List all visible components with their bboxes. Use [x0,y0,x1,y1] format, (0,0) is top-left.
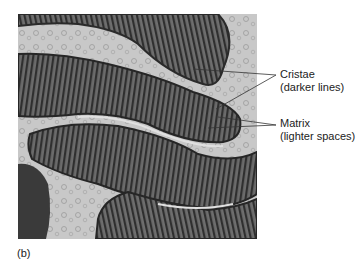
micrograph-image [18,14,257,239]
cristae-label: Cristae (darker lines) [280,68,344,94]
cristae-label-title: Cristae [280,68,344,81]
matrix-label-subtitle: (lighter spaces) [280,130,355,143]
matrix-label-title: Matrix [280,117,355,130]
panel-label: (b) [17,247,30,259]
matrix-label: Matrix (lighter spaces) [280,117,355,143]
cristae-label-subtitle: (darker lines) [280,81,344,94]
